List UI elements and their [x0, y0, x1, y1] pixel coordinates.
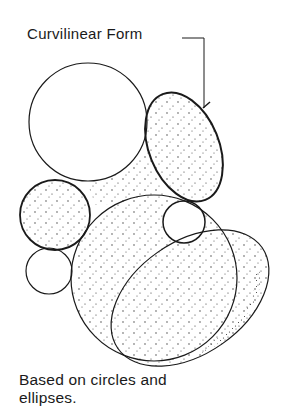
stipple-fill [0, 0, 289, 412]
small-right-circle [163, 201, 205, 243]
caption: Based on circles and ellipses. [19, 371, 259, 407]
caption-line-2: ellipses. [19, 389, 259, 407]
form-title-label: Curvilinear Form [27, 25, 143, 43]
diagram-drawing [0, 0, 289, 412]
caption-line-1: Based on circles and [19, 371, 259, 389]
curvilinear-form-diagram: Curvilinear Form Based on circles and el… [0, 0, 289, 412]
